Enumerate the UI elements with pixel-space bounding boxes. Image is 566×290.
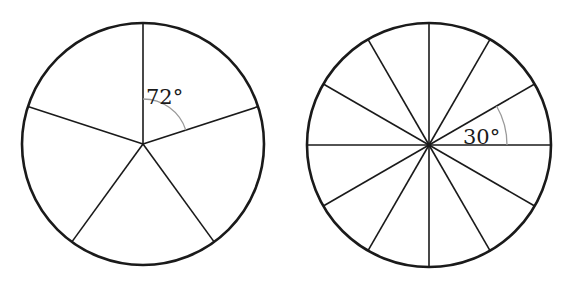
- radius-line: [429, 145, 490, 251]
- twelve-sector-circle: 30°: [307, 23, 551, 267]
- radius-line: [323, 84, 429, 145]
- radius-line: [323, 145, 429, 206]
- center-point: [427, 143, 431, 147]
- radius-line: [368, 39, 429, 145]
- angle-label: 30°: [463, 125, 500, 149]
- radius-line: [28, 107, 143, 144]
- diagram-canvas: 72° 30°: [0, 0, 566, 290]
- radius-lines: [28, 23, 258, 242]
- angle-label: 72°: [146, 85, 183, 109]
- radius-line: [368, 145, 429, 251]
- five-sector-circle: 72°: [22, 23, 264, 265]
- radius-line: [143, 144, 214, 242]
- radius-line: [143, 107, 258, 144]
- radius-line: [72, 144, 143, 242]
- radius-line: [429, 145, 535, 206]
